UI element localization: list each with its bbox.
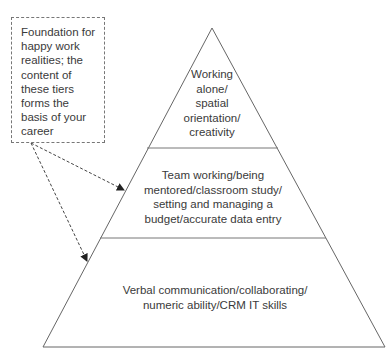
tier-bottom-label: Verbal communication/collaborating/ nume… [90, 283, 340, 312]
callout-line: content of [21, 68, 105, 82]
tier-line: alone/ [162, 82, 262, 97]
tier-line: spatial [162, 96, 262, 111]
callout-line: basis of your [21, 110, 105, 124]
tier-line: Team working/being [118, 168, 308, 183]
tier-line: creativity [162, 125, 262, 140]
callout-line: career [21, 124, 105, 138]
callout-line: realities; the [21, 53, 105, 67]
tier-line: setting and managing a [118, 197, 308, 212]
tier-line: mentored/classroom study/ [118, 183, 308, 198]
callout-box: Foundation for happy work realities; the… [11, 17, 105, 143]
tier-line: numeric ability/CRM IT skills [90, 298, 340, 313]
callout-line: forms the [21, 96, 105, 110]
tier-line: orientation/ [162, 111, 262, 126]
tier-line: budget/accurate data entry [118, 212, 308, 227]
tier-line: Verbal communication/collaborating/ [90, 283, 340, 298]
callout-line: Foundation for [21, 25, 105, 39]
tier-middle-label: Team working/being mentored/classroom st… [118, 168, 308, 226]
tier-line: Working [162, 67, 262, 82]
arrow-to-middle-tier [31, 143, 124, 190]
callout-line: these tiers [21, 82, 105, 96]
arrow-to-bottom-tier [31, 143, 87, 261]
tier-top-label: Working alone/ spatial orientation/ crea… [162, 67, 262, 140]
callout-line: happy work [21, 39, 105, 53]
callout-text: Foundation for happy work realities; the… [21, 25, 105, 139]
